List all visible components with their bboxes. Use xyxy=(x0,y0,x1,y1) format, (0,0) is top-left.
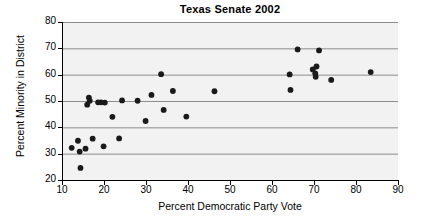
data-point xyxy=(90,136,96,142)
x-tick-mark xyxy=(62,181,63,185)
y-tick-mark xyxy=(58,154,62,155)
x-tick-mark xyxy=(356,181,357,185)
data-point xyxy=(288,87,294,93)
y-tick-label: 80 xyxy=(30,15,56,26)
data-point xyxy=(183,114,189,120)
x-tick-mark xyxy=(272,181,273,185)
x-tick-mark xyxy=(188,181,189,185)
chart-title: Texas Senate 2002 xyxy=(62,3,398,15)
plot-area xyxy=(62,22,398,180)
data-point xyxy=(143,118,149,124)
y-axis-line xyxy=(62,22,63,181)
data-point xyxy=(77,149,83,155)
chart-figure: Texas Senate 2002 20304050607080 1020304… xyxy=(0,0,421,223)
x-tick-mark xyxy=(146,181,147,185)
data-point xyxy=(135,98,141,104)
data-point xyxy=(212,88,218,94)
data-point xyxy=(149,92,155,98)
data-point xyxy=(75,138,81,144)
x-tick-mark xyxy=(314,181,315,185)
x-tick-label: 40 xyxy=(175,184,201,195)
x-tick-label: 20 xyxy=(91,184,117,195)
data-point xyxy=(161,107,167,113)
data-point xyxy=(313,74,319,80)
data-point xyxy=(83,146,89,152)
y-tick-mark xyxy=(58,75,62,76)
x-tick-mark xyxy=(398,181,399,185)
data-point xyxy=(87,98,93,104)
gridlines xyxy=(62,23,398,155)
y-tick-label: 50 xyxy=(30,94,56,105)
x-tick-label: 50 xyxy=(217,184,243,195)
x-tick-label: 90 xyxy=(385,184,411,195)
data-point xyxy=(116,135,122,141)
y-tick-mark xyxy=(58,127,62,128)
y-tick-label: 30 xyxy=(30,147,56,158)
y-tick-label: 20 xyxy=(30,173,56,184)
data-point xyxy=(78,165,84,171)
data-point xyxy=(314,64,320,70)
data-point xyxy=(287,72,293,78)
x-tick-label: 10 xyxy=(49,184,75,195)
data-point xyxy=(110,114,116,120)
data-point xyxy=(328,77,334,83)
y-tick-mark xyxy=(58,101,62,102)
x-tick-mark xyxy=(104,181,105,185)
scatter-plot-canvas xyxy=(62,22,398,180)
data-point xyxy=(295,46,301,52)
data-point xyxy=(69,145,75,151)
y-tick-mark xyxy=(58,48,62,49)
x-tick-label: 60 xyxy=(259,184,285,195)
data-point xyxy=(316,48,322,54)
y-tick-mark xyxy=(58,22,62,23)
data-point xyxy=(170,88,176,94)
x-tick-label: 80 xyxy=(343,184,369,195)
x-axis-title: Percent Democratic Party Vote xyxy=(62,200,398,212)
x-tick-mark xyxy=(230,181,231,185)
data-points-group xyxy=(69,46,374,170)
y-axis-title: Percent Minority in District xyxy=(14,16,26,176)
data-point xyxy=(368,69,374,75)
y-tick-label: 70 xyxy=(30,41,56,52)
x-tick-label: 30 xyxy=(133,184,159,195)
data-point xyxy=(158,71,164,77)
x-tick-label: 70 xyxy=(301,184,327,195)
data-point xyxy=(101,143,107,149)
data-point xyxy=(119,98,125,104)
y-tick-label: 40 xyxy=(30,120,56,131)
data-point xyxy=(102,100,108,106)
y-tick-label: 60 xyxy=(30,68,56,79)
